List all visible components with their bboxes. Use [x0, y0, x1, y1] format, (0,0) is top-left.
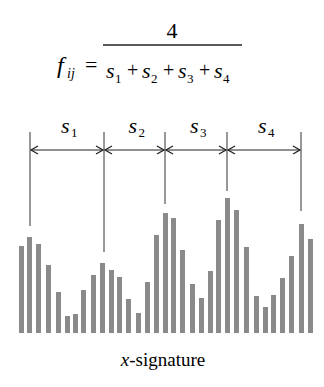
plus-operator: +	[127, 59, 138, 81]
segment-label: s	[61, 113, 70, 138]
signature-bar	[65, 316, 70, 333]
signature-bar	[19, 246, 24, 333]
signature-bar	[154, 235, 159, 333]
formula-numerator: 4	[167, 18, 178, 43]
segment-label: s	[258, 113, 267, 138]
segment-label-sub: 4	[268, 125, 275, 140]
denominator-sub: 2	[151, 71, 158, 86]
signature-bar	[254, 296, 259, 333]
denominator-sub: 4	[223, 71, 230, 86]
signature-bar	[91, 275, 96, 333]
signature-bar	[234, 210, 239, 333]
signature-bar	[27, 237, 32, 333]
denominator-sub: 3	[187, 71, 194, 86]
signature-bar	[289, 256, 294, 333]
segment-label: s	[129, 113, 138, 138]
signature-bar	[100, 263, 105, 333]
segment-label-sub: 1	[71, 125, 78, 140]
signature-bar	[263, 307, 268, 333]
signature-bar	[117, 277, 122, 333]
formula-lhs-subscript: ij	[67, 66, 75, 81]
signature-bar	[136, 313, 141, 333]
denominator-var: s	[142, 58, 151, 83]
signature-bar	[171, 218, 176, 333]
signature-bar	[216, 220, 221, 333]
signature-bar	[126, 299, 131, 333]
formula-denominator: s1+s2+s3+s4	[106, 58, 230, 86]
signature-bar	[271, 295, 276, 333]
denominator-sub: 1	[115, 71, 122, 86]
caption: x-signature	[120, 349, 205, 370]
plus-operator: +	[199, 59, 210, 81]
signature-bar	[46, 265, 51, 333]
segment-label-sub: 3	[200, 125, 207, 140]
signature-bar	[145, 282, 150, 333]
signature-bar	[199, 298, 204, 333]
signature-bar	[244, 247, 249, 333]
caption-text: x-signature	[120, 349, 205, 370]
signature-bar	[163, 213, 168, 333]
signature-bar	[180, 250, 185, 333]
signature-bar	[308, 239, 313, 333]
segment-label-sub: 2	[139, 125, 146, 140]
x-signature-diagram: f ij = 4 s1+s2+s3+s4 s1s2s3s4 x-signatur…	[0, 0, 324, 387]
formula-lhs: f	[57, 52, 67, 78]
signature-bar	[56, 292, 61, 333]
signature-bar	[208, 271, 213, 333]
signature-bar	[36, 244, 41, 333]
signature-bar	[81, 290, 86, 333]
signature-bar	[73, 314, 78, 333]
formula-equals: =	[85, 52, 97, 77]
segment-label: s	[190, 113, 199, 138]
formula: f ij = 4 s1+s2+s3+s4	[57, 18, 242, 86]
denominator-var: s	[178, 58, 187, 83]
signature-bar	[109, 270, 114, 333]
denominator-var: s	[106, 58, 115, 83]
signature-bar	[280, 278, 285, 333]
signature-bar	[225, 198, 230, 333]
signature-bar	[190, 284, 195, 333]
caption-rest: -signature	[129, 349, 205, 370]
denominator-var: s	[214, 58, 223, 83]
plus-operator: +	[163, 59, 174, 81]
signature-bar	[299, 224, 304, 333]
signature-bars	[19, 198, 313, 333]
